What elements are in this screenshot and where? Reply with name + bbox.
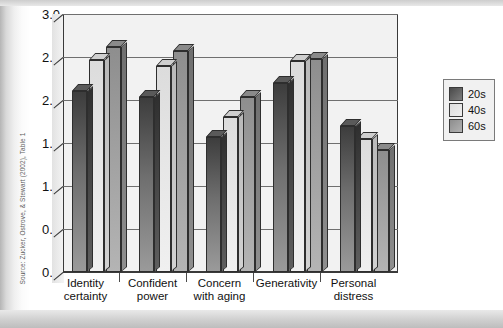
legend: 20s 40s 60s	[443, 79, 495, 141]
bar-side-face	[355, 121, 361, 272]
source-caption: Source: Zucker, Ostrove, & Stewart (2002…	[19, 115, 26, 285]
x-axis-category-line: Identity	[67, 277, 104, 289]
bar-front-face	[273, 83, 288, 272]
legend-item[interactable]: 60s	[449, 119, 489, 133]
bar-series-container	[63, 14, 398, 272]
x-axis-separator-tick	[186, 273, 187, 282]
plot-area	[63, 14, 398, 272]
x-axis-category-line: Personal	[331, 277, 376, 289]
page-bottom-edge	[0, 310, 503, 328]
x-axis-category-line: with aging	[194, 290, 246, 302]
bar[interactable]	[340, 126, 355, 272]
bar-group	[331, 14, 398, 272]
bar[interactable]	[273, 83, 288, 272]
x-axis-category-line: power	[137, 290, 168, 302]
legend-label: 40s	[468, 104, 486, 116]
bar-side-face	[104, 55, 110, 272]
legend-swatch-icon	[449, 119, 463, 133]
x-axis-separator-tick	[119, 273, 120, 282]
legend-label: 20s	[468, 88, 486, 100]
bar-group	[197, 14, 264, 272]
bar-front-face	[139, 97, 154, 272]
x-axis-separator-tick	[253, 273, 254, 282]
x-axis-category-label: Generativity	[251, 277, 323, 290]
bar-side-face	[288, 78, 294, 272]
bar-side-face	[188, 46, 194, 272]
bar-side-face	[305, 56, 311, 272]
bar[interactable]	[139, 97, 154, 272]
bar-side-face	[238, 112, 244, 272]
x-axis-category-line: Generativity	[256, 277, 317, 289]
page-top-edge	[0, 0, 503, 6]
x-axis-separator-tick	[320, 273, 321, 282]
legend-label: 60s	[468, 120, 486, 132]
x-axis-category-label: Personaldistress	[318, 277, 390, 302]
bar-group	[130, 14, 197, 272]
gridline	[63, 272, 398, 273]
bar-front-face	[206, 137, 221, 272]
bar-side-face	[154, 92, 160, 272]
bar-front-face	[72, 91, 87, 272]
legend-item[interactable]: 20s	[449, 87, 489, 101]
legend-swatch-icon	[449, 87, 463, 101]
chart-page: Source: Zucker, Ostrove, & Stewart (2002…	[0, 0, 503, 328]
bar-side-face	[121, 42, 127, 272]
bar-group	[264, 14, 331, 272]
bar-side-face	[255, 92, 261, 272]
bar-side-face	[87, 86, 93, 272]
x-axis-category-label: Concernwith aging	[184, 277, 256, 302]
bar-side-face	[389, 145, 395, 272]
x-axis-category-line: Concern	[198, 277, 241, 289]
x-axis-category-line: distress	[334, 290, 374, 302]
legend-item[interactable]: 40s	[449, 103, 489, 117]
bar-front-face	[340, 126, 355, 272]
bar[interactable]	[206, 137, 221, 272]
bar-group	[63, 14, 130, 272]
bar-side-face	[171, 61, 177, 272]
bar-side-face	[372, 134, 378, 272]
x-axis-category-line: Confident	[128, 277, 177, 289]
bar-side-face	[322, 54, 328, 272]
legend-swatch-icon	[449, 103, 463, 117]
x-axis-category-label: Identitycertainty	[50, 277, 122, 302]
bar[interactable]	[72, 91, 87, 272]
x-axis-category-label: Confidentpower	[117, 277, 189, 302]
x-axis-category-line: certainty	[64, 290, 107, 302]
bar-side-face	[221, 132, 227, 272]
